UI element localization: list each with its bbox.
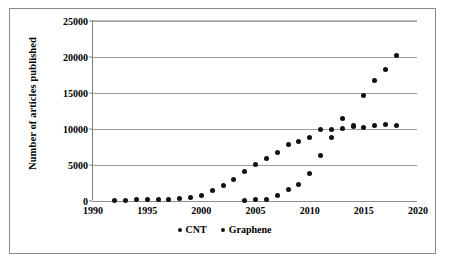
- data-point: [242, 198, 247, 203]
- data-point: [275, 150, 280, 155]
- data-point: [264, 197, 269, 202]
- data-point: [275, 193, 280, 198]
- data-point: [296, 139, 301, 144]
- data-point: [286, 187, 291, 192]
- data-point: [286, 142, 291, 147]
- data-point: [329, 135, 334, 140]
- y-tick-mark: [89, 165, 93, 166]
- plot-area: 0500010000150002000025000 19901995200020…: [92, 20, 417, 200]
- y-tick-label: 5000: [68, 160, 88, 171]
- data-point: [307, 135, 312, 140]
- data-point: [242, 169, 247, 174]
- data-point: [372, 123, 377, 128]
- y-tick-mark: [89, 93, 93, 94]
- data-point: [318, 153, 323, 158]
- x-tick-label: 2010: [300, 205, 320, 216]
- chart-figure: Number of articles published 05000100001…: [0, 0, 449, 271]
- legend-marker-icon: [221, 228, 225, 232]
- y-tick-label: 20000: [63, 52, 88, 63]
- data-point: [361, 93, 366, 98]
- data-point: [253, 162, 258, 167]
- data-point: [199, 193, 204, 198]
- data-point: [372, 78, 377, 83]
- data-point: [145, 197, 150, 202]
- legend-entry: CNT: [178, 224, 207, 235]
- y-tick-mark: [89, 21, 93, 22]
- x-tick-label: 2015: [354, 205, 374, 216]
- data-point: [177, 196, 182, 201]
- data-point: [318, 127, 323, 132]
- data-point: [340, 126, 345, 131]
- legend-label: Graphene: [229, 224, 272, 235]
- gridline: [93, 57, 417, 58]
- data-point: [296, 182, 301, 187]
- y-tick-mark: [89, 201, 93, 202]
- gridline: [93, 21, 417, 22]
- gridline: [93, 93, 417, 94]
- data-point: [383, 67, 388, 72]
- data-point: [329, 127, 334, 132]
- data-point: [210, 188, 215, 193]
- legend-marker-icon: [178, 228, 182, 232]
- data-point: [307, 171, 312, 176]
- y-tick-mark: [89, 129, 93, 130]
- x-tick-label: 2005: [246, 205, 266, 216]
- chart-legend: CNTGraphene: [0, 224, 449, 235]
- data-point: [156, 197, 161, 202]
- data-point: [231, 177, 236, 182]
- gridline: [93, 129, 417, 130]
- data-point: [188, 195, 193, 200]
- data-point: [340, 116, 345, 121]
- data-point: [221, 183, 226, 188]
- y-tick-label: 25000: [63, 16, 88, 27]
- y-tick-label: 15000: [63, 88, 88, 99]
- y-tick-label: 10000: [63, 124, 88, 135]
- data-point: [394, 123, 399, 128]
- data-point: [351, 124, 356, 129]
- x-tick-label: 2000: [191, 205, 211, 216]
- legend-label: CNT: [186, 224, 207, 235]
- y-tick-mark: [89, 57, 93, 58]
- legend-entry: Graphene: [221, 224, 272, 235]
- data-point: [383, 122, 388, 127]
- data-point: [264, 156, 269, 161]
- data-point: [123, 198, 128, 203]
- x-tick-label: 2020: [408, 205, 428, 216]
- x-tick-label: 1990: [83, 205, 103, 216]
- x-tick-label: 1995: [137, 205, 157, 216]
- y-axis-title: Number of articles published: [27, 24, 38, 184]
